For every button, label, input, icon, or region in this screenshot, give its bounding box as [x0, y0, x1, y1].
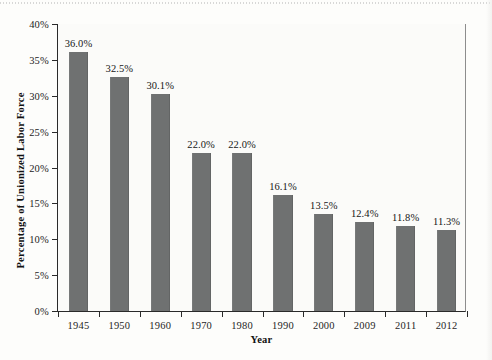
bar-value-label: 11.3% [433, 216, 460, 227]
y-axis-title-text: Percentage of Unionized Labor Force [15, 92, 26, 268]
x-axis-tick-label: 1950 [108, 320, 130, 331]
x-axis-tick-label: 2000 [313, 320, 335, 331]
x-axis-title: Year [57, 334, 466, 345]
x-axis-tick [181, 311, 182, 317]
bar: 12.4% [355, 222, 374, 311]
bar-value-label: 12.4% [351, 208, 379, 219]
bar: 30.1% [151, 94, 170, 311]
y-axis-tick-label: 15% [29, 198, 49, 209]
x-axis-tick-label: 1990 [272, 320, 294, 331]
y-axis-tick [52, 60, 58, 61]
x-axis-tick-label: 1945 [68, 320, 90, 331]
chart-page: Percentage of Unionized Labor Force 0%5%… [0, 0, 492, 360]
x-axis-tick-label: 2012 [436, 320, 458, 331]
x-axis-tick-label: 2009 [354, 320, 376, 331]
x-axis-tick [344, 311, 345, 317]
x-axis-tick [263, 311, 264, 317]
bar-value-label: 11.8% [392, 212, 419, 223]
y-axis-tick-label: 30% [29, 90, 49, 101]
y-axis-tick-label: 0% [35, 306, 49, 317]
y-axis-tick-label: 40% [29, 19, 49, 30]
x-axis-tick [140, 311, 141, 317]
y-axis-tick [52, 132, 58, 133]
y-axis-tick [52, 24, 58, 25]
bar: 22.0% [192, 153, 211, 311]
bar-value-label: 22.0% [228, 139, 256, 150]
x-axis-tick [58, 311, 59, 317]
y-axis-tick [52, 96, 58, 97]
x-axis-tick-label: 1960 [149, 320, 171, 331]
bar-value-label: 16.1% [269, 181, 297, 192]
bar: 32.5% [110, 77, 129, 311]
y-axis-title: Percentage of Unionized Labor Force [12, 0, 28, 360]
x-axis-tick-label: 1980 [231, 320, 253, 331]
y-axis-tick [52, 239, 58, 240]
plot-area: 0%5%10%15%20%25%30%35%40%36.0%194532.5%1… [57, 24, 466, 312]
bar-value-label: 30.1% [146, 80, 174, 91]
y-axis-tick-label: 10% [29, 234, 49, 245]
y-axis-tick [52, 203, 58, 204]
x-axis-tick [467, 311, 468, 317]
scan-artifact-right [486, 0, 492, 360]
bar: 13.5% [314, 214, 333, 311]
y-axis-tick [52, 275, 58, 276]
bar: 11.8% [396, 226, 415, 311]
x-axis-tick [222, 311, 223, 317]
y-axis-tick-label: 35% [29, 54, 49, 65]
y-axis-tick [52, 168, 58, 169]
x-axis-tick [303, 311, 304, 317]
bar-value-label: 36.0% [65, 38, 93, 49]
bar: 22.0% [232, 153, 251, 311]
x-axis-tick [426, 311, 427, 317]
bar: 11.3% [437, 230, 456, 311]
x-axis-tick-label: 1970 [190, 320, 212, 331]
x-axis-tick [99, 311, 100, 317]
plot-inner: 0%5%10%15%20%25%30%35%40%36.0%194532.5%1… [58, 24, 465, 311]
bar-value-label: 32.5% [106, 63, 134, 74]
bar: 16.1% [273, 195, 292, 311]
y-axis-tick-label: 20% [29, 162, 49, 173]
bar: 36.0% [69, 52, 88, 311]
x-axis-tick-label: 2011 [395, 320, 416, 331]
x-axis-tick [385, 311, 386, 317]
y-axis-tick-label: 25% [29, 126, 49, 137]
bar-value-label: 22.0% [187, 139, 215, 150]
bar-value-label: 13.5% [310, 200, 338, 211]
y-axis-tick-label: 5% [35, 270, 49, 281]
scan-artifact-top [0, 2, 492, 4]
